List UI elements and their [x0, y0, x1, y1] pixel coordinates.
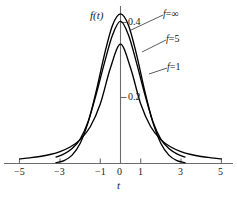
y-axis-ticks: [121, 23, 127, 98]
y-tick-label-0-2: 0.2: [128, 92, 141, 102]
leader-line-f-5: [142, 40, 166, 52]
x-tick-label-zero: 0: [117, 167, 122, 177]
curve-label-f-5-value: =5: [169, 33, 180, 44]
x-tick-label-plus5: 5: [218, 167, 223, 177]
curve-label-f-infinity: f=∞: [163, 9, 179, 19]
y-axis-title: f(t): [90, 10, 103, 21]
curve-label-f-1-value: =1: [170, 61, 181, 72]
curve-label-f-5: f=5: [166, 34, 179, 44]
curve-label-f-infinity-value: =∞: [166, 8, 179, 19]
t-distribution-chart: f(t) 0.4 0.2 −5 −3 −1 0 1 3 5 t f=∞ f=5 …: [0, 0, 237, 197]
x-tick-label-plus1: 1: [138, 167, 143, 177]
x-axis-title: t: [117, 180, 120, 191]
x-tick-label-minus5: −5: [14, 167, 25, 177]
x-tick-label-minus1: −1: [95, 167, 106, 177]
leader-line-f-1: [149, 68, 167, 74]
curve-label-f-1: f=1: [167, 62, 180, 72]
x-tick-label-plus3: 3: [178, 167, 183, 177]
y-tick-label-0-4: 0.4: [128, 17, 141, 27]
x-tick-label-minus3: −3: [54, 167, 65, 177]
